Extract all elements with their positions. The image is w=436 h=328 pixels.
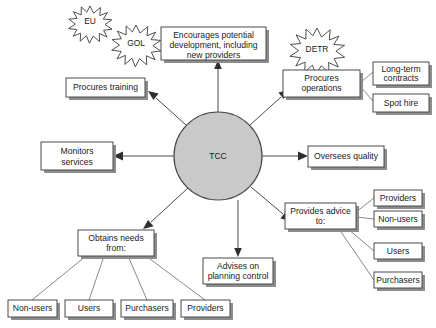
burst-gol-label: GOL [127,38,145,48]
node-procures-operations-line2: operations [301,83,341,93]
node-needs-purchasers[interactable]: Purchasers [121,300,176,320]
node-obtains-needs[interactable]: Obtains needs from: [78,230,157,259]
node-advises-planning-line1: Advises on [217,261,259,271]
node-advice-purchasers-label: Purchasers [376,275,419,285]
edge-needs-to-providers [146,256,205,300]
edge-needs-to-non-users [32,256,86,300]
node-monitors-services[interactable]: Monitors services [41,142,116,173]
node-long-term-contracts[interactable]: Long-term contracts [373,62,432,88]
node-needs-providers-label: Providers [187,303,223,313]
edge-hub-to-oversees-quality [262,152,308,161]
node-needs-non-users[interactable]: Non-users [8,300,60,320]
diagram-canvas: EU GOL DETR TCC Encourages potential [0,0,436,328]
node-procures-operations[interactable]: Procures operations [283,70,363,100]
burst-eu-label: EU [84,16,96,26]
edge-hub-to-monitors-services [113,152,174,161]
edge-hub-to-encourages [214,60,222,112]
edge-needs-to-users [89,256,104,300]
node-obtains-needs-line2: from: [106,243,126,253]
node-advises-planning[interactable]: Advises on planning control [203,258,276,287]
tcc-relationship-diagram: EU GOL DETR TCC Encourages potential [0,0,436,328]
node-long-term-contracts-line2: contracts [384,73,419,83]
edge-hub-to-procures-training [148,91,186,125]
node-advice-providers-label: Providers [380,193,416,203]
node-encourages-development-line2: development, including [170,40,258,50]
node-advises-planning-line2: planning control [208,271,269,281]
node-procures-operations-line1: Procures [304,73,338,83]
node-spot-hire-label: Spot hire [384,98,419,108]
edge-needs-to-purchasers [128,256,147,300]
node-needs-providers[interactable]: Providers [181,300,233,320]
node-encourages-development-line3: new providers [187,50,241,60]
node-provides-advice-line1: Provides advice [290,206,351,216]
burst-gol: GOL [112,25,161,67]
edge-hub-to-advises-planning [234,200,242,257]
edge-hub-to-obtains-needs [143,188,188,229]
node-encourages-development-line1: Encourages potential [173,30,254,40]
node-oversees-quality-label: Oversees quality [314,151,379,161]
node-advice-users-label: Users [387,246,409,256]
node-advice-non-users[interactable]: Non-users [374,211,425,230]
node-provides-advice[interactable]: Provides advice to: [285,203,359,232]
burst-detr-label: DETR [306,44,329,54]
burst-eu: EU [69,6,113,43]
node-advice-users[interactable]: Users [374,243,425,262]
node-obtains-needs-line1: Obtains needs [88,233,143,243]
node-advice-providers[interactable]: Providers [374,190,425,209]
node-procures-training[interactable]: Procures training [66,78,148,100]
node-oversees-quality[interactable]: Oversees quality [308,146,387,170]
node-spot-hire[interactable]: Spot hire [373,94,432,115]
node-needs-users[interactable]: Users [65,300,116,320]
node-advice-non-users-label: Non-users [378,214,418,224]
node-monitors-services-line2: services [61,157,93,167]
node-provides-advice-line2: to: [316,216,326,226]
node-monitors-services-line1: Monitors [61,146,94,156]
node-needs-non-users-label: Non-users [13,303,53,313]
node-encourages-development[interactable]: Encourages potential development, includ… [161,27,269,63]
node-advice-purchasers[interactable]: Purchasers [374,272,425,291]
node-needs-users-label: Users [78,303,100,313]
hub-node-tcc[interactable]: TCC [174,112,262,200]
burst-detr: DETR [290,28,345,75]
hub-label: TCC [209,151,227,161]
node-needs-purchasers-label: Purchasers [125,303,168,313]
node-procures-training-label: Procures training [73,82,138,92]
